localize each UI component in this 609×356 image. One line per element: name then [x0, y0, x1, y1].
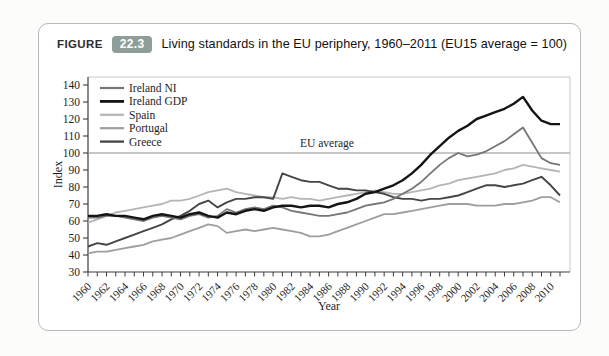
x-tick-label: 1992 [366, 280, 390, 304]
legend-label: Ireland NI [129, 82, 177, 94]
legend-label: Spain [129, 109, 155, 122]
x-tick-label: 1996 [403, 280, 427, 304]
y-tick-label: 90 [69, 164, 81, 176]
x-tick-label: 1968 [143, 280, 167, 304]
x-tick-label: 1966 [125, 280, 149, 304]
x-tick-label: 2002 [458, 280, 482, 304]
x-tick-label: 1978 [236, 280, 260, 304]
x-tick-label: 1990 [347, 280, 371, 304]
x-tick-label: 1972 [180, 280, 204, 304]
y-tick-label: 80 [69, 181, 81, 193]
y-tick-label: 130 [63, 96, 81, 108]
living-standards-line-chart: 3040506070809010011012013014019601962196… [0, 0, 609, 356]
x-tick-label: 1964 [106, 280, 130, 304]
y-tick-label: 30 [69, 266, 81, 278]
y-tick-label: 140 [63, 79, 81, 91]
x-tick-label: 1960 [69, 280, 93, 304]
y-tick-label: 50 [69, 232, 81, 244]
x-tick-label: 2006 [495, 280, 519, 304]
x-tick-label: 1962 [88, 280, 112, 304]
x-tick-label: 1998 [421, 280, 445, 304]
y-tick-label: 100 [63, 147, 81, 159]
y-tick-label: 110 [63, 130, 80, 142]
x-tick-label: 1994 [384, 280, 408, 304]
y-tick-label: 70 [69, 198, 81, 210]
x-tick-label: 1974 [199, 280, 223, 304]
x-tick-label: 2008 [514, 280, 538, 304]
x-tick-label: 1982 [273, 280, 297, 304]
x-tick-label: 1976 [217, 280, 241, 304]
eu-average-label: EU average [300, 137, 354, 150]
x-tick-label: 2004 [477, 280, 501, 304]
x-axis-title: Year [318, 299, 340, 313]
legend-label: Portugal [129, 122, 168, 135]
y-tick-label: 40 [69, 249, 81, 261]
x-tick-label: 1984 [291, 280, 315, 304]
series-line-ireland-gdp [88, 97, 560, 219]
x-tick-label: 1980 [254, 280, 278, 304]
legend-label: Greece [129, 136, 162, 148]
y-tick-label: 60 [69, 215, 81, 227]
legend-label: Ireland GDP [129, 95, 187, 107]
x-tick-label: 2000 [440, 280, 464, 304]
y-axis-title: Index [51, 161, 65, 188]
x-tick-label: 2010 [532, 280, 556, 304]
y-tick-label: 120 [63, 113, 81, 125]
x-tick-label: 1970 [162, 280, 186, 304]
